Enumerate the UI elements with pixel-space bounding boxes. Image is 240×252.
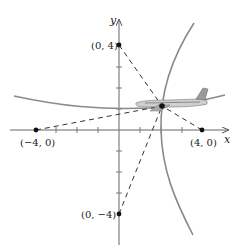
label-point-right: (4, 0) <box>190 137 217 148</box>
x-axis-label: x <box>224 133 231 146</box>
y-axis-label: y <box>109 14 117 27</box>
point-bottom <box>117 212 122 217</box>
intersection-point <box>159 103 165 109</box>
label-point-bottom: (0, −4) <box>81 209 116 220</box>
label-point-top: (0, 4) <box>91 40 118 51</box>
hyperbola-curve-vertical <box>161 23 194 235</box>
point-right <box>200 128 205 133</box>
coordinate-diagram: y x (0, 4) (0, −4) (−4, 0) (4, 0) <box>0 0 240 252</box>
y-axis <box>116 20 122 245</box>
label-point-left: (−4, 0) <box>20 137 55 148</box>
point-left <box>34 128 39 133</box>
